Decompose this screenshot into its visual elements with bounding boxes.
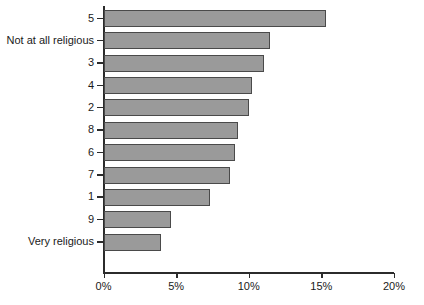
bar <box>104 122 238 139</box>
bar-row: 1 <box>0 186 424 208</box>
bar <box>104 167 230 184</box>
bar-row: 6 <box>0 142 424 164</box>
bar <box>104 77 252 94</box>
y-axis-tick <box>97 152 103 153</box>
y-axis-tick <box>97 40 103 41</box>
bar-row: 8 <box>0 119 424 141</box>
x-axis-label: 10% <box>219 280 279 292</box>
y-axis-label: 5 <box>0 10 94 27</box>
y-axis-label: 8 <box>0 121 94 138</box>
y-axis-tick <box>97 196 103 197</box>
bar <box>104 99 249 116</box>
bar <box>104 55 264 72</box>
x-axis-label: 15% <box>291 280 351 292</box>
bar <box>104 234 161 251</box>
y-axis-tick <box>97 174 103 175</box>
x-axis-tick <box>104 273 105 278</box>
bar-row: 3 <box>0 52 424 74</box>
bar <box>104 144 235 161</box>
y-axis-label: 4 <box>0 77 94 94</box>
y-axis-tick <box>97 219 103 220</box>
bar-row: 5 <box>0 8 424 30</box>
y-axis-label: Not at all religious <box>0 32 94 49</box>
y-axis-tick <box>97 62 103 63</box>
y-axis-tick <box>97 18 103 19</box>
y-axis-tick <box>97 85 103 86</box>
y-axis-label: Very religious <box>0 233 94 250</box>
x-axis-tick <box>394 273 395 278</box>
bar-row: Very religious <box>0 231 424 253</box>
bar <box>104 189 210 206</box>
y-axis-tick <box>97 129 103 130</box>
y-axis-tick <box>97 107 103 108</box>
x-axis-label: 0% <box>74 280 134 292</box>
x-axis-label: 20% <box>364 280 424 292</box>
bar-row: 4 <box>0 75 424 97</box>
y-axis-label: 9 <box>0 211 94 228</box>
bar-row: 9 <box>0 209 424 231</box>
x-axis-tick <box>321 273 322 278</box>
bar-row: 7 <box>0 164 424 186</box>
x-axis-tick <box>249 273 250 278</box>
bar <box>104 32 270 49</box>
bar-row: 2 <box>0 97 424 119</box>
x-axis-tick <box>176 273 177 278</box>
y-axis-tick <box>97 241 103 242</box>
x-axis-label: 5% <box>146 280 206 292</box>
bar <box>104 211 171 228</box>
bar <box>104 10 326 27</box>
y-axis-label: 7 <box>0 166 94 183</box>
y-axis-label: 2 <box>0 99 94 116</box>
y-axis-label: 6 <box>0 144 94 161</box>
y-axis-label: 1 <box>0 188 94 205</box>
bar-row: Not at all religious <box>0 30 424 52</box>
y-axis-label: 3 <box>0 54 94 71</box>
bar-chart: 5Not at all religious34286719Very religi… <box>0 0 424 305</box>
